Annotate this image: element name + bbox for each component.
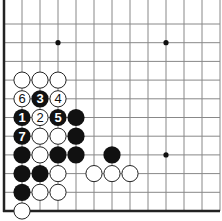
white-stone-icon — [50, 166, 66, 182]
white-stone — [32, 184, 48, 200]
black-stone-icon — [67, 128, 84, 145]
white-stone — [32, 128, 48, 144]
move-number-label: 3 — [36, 91, 43, 106]
black-stone-icon — [67, 146, 84, 163]
black-stone-icon — [31, 165, 48, 182]
white-stone-icon — [32, 72, 48, 88]
white-stone — [14, 203, 30, 219]
white-stone-icon — [86, 166, 102, 182]
white-stone — [50, 72, 66, 88]
go-board-svg: 6341257 — [0, 0, 222, 221]
move-number-label: 2 — [36, 110, 43, 125]
move-number-label: 4 — [54, 91, 61, 106]
white-stone — [14, 72, 30, 88]
black-stone — [13, 184, 30, 201]
move-number-label: 6 — [18, 91, 25, 106]
black-stone — [13, 146, 30, 163]
white-stone-icon — [14, 72, 30, 88]
white-stone — [50, 184, 66, 200]
white-stone-icon — [32, 128, 48, 144]
move-number-label: 7 — [18, 129, 25, 144]
black-stone-5: 5 — [49, 109, 66, 126]
move-number-label: 5 — [54, 110, 61, 125]
white-stone-icon — [50, 184, 66, 200]
white-stone-icon — [32, 184, 48, 200]
black-stone-icon — [13, 146, 30, 163]
white-stone-2: 2 — [32, 109, 48, 125]
white-stone-icon — [122, 166, 138, 182]
black-stone-icon — [103, 146, 120, 163]
move-number-label: 1 — [18, 110, 25, 125]
star-point-icon — [163, 40, 168, 45]
star-point-icon — [163, 152, 168, 157]
white-stone — [122, 166, 138, 182]
star-point-icon — [55, 40, 60, 45]
white-stone-4: 4 — [50, 91, 66, 107]
white-stone-icon — [50, 128, 66, 144]
black-stone-icon — [13, 184, 30, 201]
go-board-diagram: 6341257 — [0, 0, 222, 221]
white-stone-icon — [104, 166, 120, 182]
white-stone — [104, 166, 120, 182]
white-stone — [32, 72, 48, 88]
black-stone — [49, 146, 66, 163]
black-stone-icon — [49, 146, 66, 163]
black-stone-3: 3 — [31, 90, 48, 107]
white-stone — [86, 166, 102, 182]
white-stone-icon — [50, 72, 66, 88]
black-stone-1: 1 — [13, 109, 30, 126]
white-stone-icon — [32, 147, 48, 163]
black-stone-icon — [67, 109, 84, 126]
black-stone — [67, 146, 84, 163]
black-stone — [31, 165, 48, 182]
white-stone-icon — [14, 203, 30, 219]
black-stone — [13, 165, 30, 182]
black-stone — [67, 109, 84, 126]
black-stone — [67, 128, 84, 145]
white-stone — [50, 166, 66, 182]
white-stone — [32, 147, 48, 163]
white-stone — [50, 128, 66, 144]
black-stone-icon — [13, 165, 30, 182]
black-stone — [103, 146, 120, 163]
black-stone-7: 7 — [13, 128, 30, 145]
white-stone-6: 6 — [14, 91, 30, 107]
